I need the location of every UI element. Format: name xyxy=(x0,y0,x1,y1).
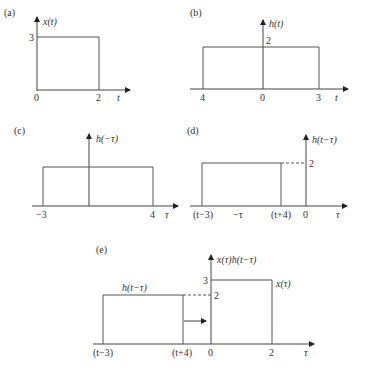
y-tick-2: 2 xyxy=(309,158,314,169)
h-curve-label: h(t−τ) xyxy=(122,282,147,294)
x-curve-label: x(τ) xyxy=(275,278,291,290)
panel-e-tag: (e) xyxy=(96,244,107,256)
y-axis-label: h(−τ) xyxy=(96,133,119,145)
x-tick-4: 4 xyxy=(150,209,155,220)
panel-d-tag: (d) xyxy=(187,125,199,137)
x-tick-t-plus-4: (t+4) xyxy=(271,209,291,221)
x-tick-0: 0 xyxy=(303,209,308,220)
panel-c: (c) h(−τ) −3 4 τ xyxy=(14,125,178,220)
x-tick-0: 0 xyxy=(260,92,265,103)
x-axis-label: t xyxy=(117,92,120,103)
figure-canvas: (a) x(t) 3 0 2 t (b) h(t) 2 4 0 3 t (c) … xyxy=(0,0,365,372)
x-tick-3: 3 xyxy=(316,92,321,103)
x-tick-t-minus-3: (t−3) xyxy=(93,347,113,359)
convolution-figure: (a) x(t) 3 0 2 t (b) h(t) 2 4 0 3 t (c) … xyxy=(0,0,365,372)
x-axis-label: τ xyxy=(304,347,308,358)
y-tick-2: 2 xyxy=(214,290,219,301)
h-signal-pulse xyxy=(203,47,319,89)
h-shifted-pulse xyxy=(202,163,281,206)
y-axis-label: x(t) xyxy=(42,16,58,28)
panel-b-tag: (b) xyxy=(190,7,202,19)
x-tick-t-minus-3: (t−3) xyxy=(193,209,213,221)
x-axis-label: τ xyxy=(336,209,340,220)
x-tick-neg4: 4 xyxy=(200,92,205,103)
h-shifted-pulse xyxy=(103,295,183,344)
x-tick-2: 2 xyxy=(269,347,274,358)
panel-a: (a) x(t) 3 0 2 t xyxy=(4,7,130,103)
x-axis-label: t xyxy=(335,92,338,103)
x-signal-pulse xyxy=(211,280,272,344)
x-tick-0: 0 xyxy=(208,347,213,358)
x-tick-neg-tau: −τ xyxy=(233,209,243,220)
panel-d: (d) h(t−τ) 2 (t−3) −τ (t+4) 0 τ xyxy=(187,125,347,221)
y-axis-label: x(τ)h(t−τ) xyxy=(216,254,257,266)
y-axis-label: h(t−τ) xyxy=(312,134,337,146)
y-axis-label: h(t) xyxy=(269,18,284,30)
panel-e: (e) x(τ)h(t−τ) 3 2 h(t−τ) x(τ) (t−3) (t+… xyxy=(93,244,314,359)
x-axis-label: τ xyxy=(165,209,169,220)
x-signal-pulse xyxy=(37,37,99,90)
panel-c-tag: (c) xyxy=(14,125,25,137)
x-tick-0: 0 xyxy=(34,92,39,103)
x-tick-neg3: −3 xyxy=(36,209,47,220)
x-tick-t-plus-4: (t+4) xyxy=(172,347,192,359)
h-reversed-pulse xyxy=(43,167,153,206)
panel-a-tag: (a) xyxy=(4,7,15,19)
y-tick-2: 2 xyxy=(266,35,271,46)
y-tick-3: 3 xyxy=(29,32,34,43)
y-tick-3: 3 xyxy=(203,275,208,286)
x-tick-2: 2 xyxy=(96,92,101,103)
panel-b: (b) h(t) 2 4 0 3 t xyxy=(190,7,348,103)
